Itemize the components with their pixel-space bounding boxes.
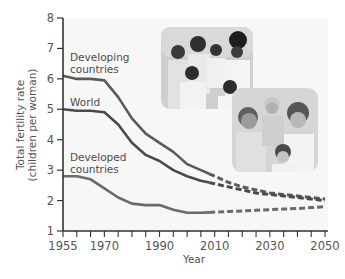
y-tick-label: 5 <box>47 102 54 116</box>
y-tick-label: 2 <box>47 194 54 208</box>
developed-family-photo <box>232 88 318 172</box>
series-label-developed-line-1: Developed <box>70 151 126 163</box>
series-label-developed: Developed countries <box>70 151 126 175</box>
series-label-developing-line-1: Developing <box>70 51 129 63</box>
y-tick-label: 4 <box>47 133 54 147</box>
x-ticks: 195519701990201020302050 <box>48 231 339 253</box>
series-label-developing-line-2: countries <box>70 63 119 75</box>
x-tick-label: 2010 <box>200 239 229 253</box>
x-tick-label: 1990 <box>145 239 174 253</box>
y-axis-title: Total fertility rate (children per woman… <box>14 69 38 182</box>
y-tick-label: 7 <box>47 41 54 55</box>
fertility-chart: 12345678 195519701990201020302050 Year T… <box>0 0 345 279</box>
x-tick-label: 2050 <box>310 239 339 253</box>
y-tick-label: 1 <box>47 224 54 238</box>
series-label-world: World <box>70 96 100 108</box>
y-ticks: 12345678 <box>47 11 63 238</box>
y-axis-title-line-2: (children per woman) <box>26 69 38 182</box>
x-tick-label: 1955 <box>48 239 77 253</box>
y-axis-title-line-1: Total fertility rate <box>14 80 26 171</box>
series-label-developed-line-2: countries <box>70 163 119 175</box>
x-tick-label: 2030 <box>255 239 284 253</box>
y-tick-label: 8 <box>47 11 54 25</box>
y-tick-label: 3 <box>47 163 54 177</box>
y-tick-label: 6 <box>47 72 54 86</box>
x-axis-title: Year <box>182 253 206 265</box>
series-label-world-line-1: World <box>70 96 100 108</box>
x-tick-label: 1970 <box>90 239 119 253</box>
